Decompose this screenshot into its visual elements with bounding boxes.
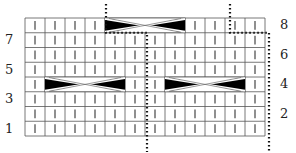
row-number-label: 1 <box>5 122 13 135</box>
row-number-label: 8 <box>280 18 288 31</box>
row-number-label: 3 <box>5 92 13 105</box>
row-number-label: 5 <box>5 63 13 76</box>
chart-grid <box>0 0 296 153</box>
row-number-label: 4 <box>280 77 288 90</box>
row-number-label: 7 <box>5 33 13 46</box>
knitting-chart: 75318642 <box>0 0 296 153</box>
row-number-label: 6 <box>280 48 288 61</box>
row-number-label: 2 <box>280 107 288 120</box>
